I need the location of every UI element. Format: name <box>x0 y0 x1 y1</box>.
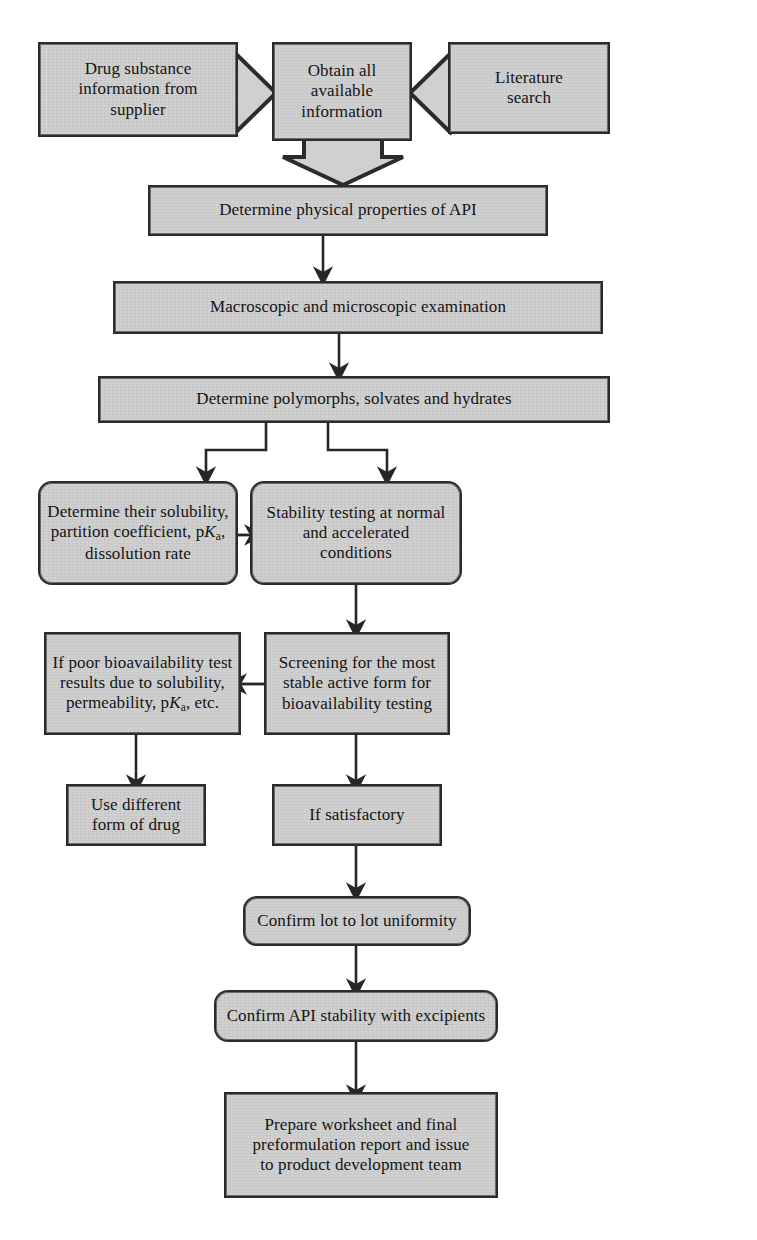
node-poor-bioavailability[interactable]: If poor bioavailability testresults due … <box>44 632 241 735</box>
node-api-stability-label: Confirm API stability with excipients <box>227 1006 486 1026</box>
block-chevron-left-icon <box>410 52 452 134</box>
node-literature-search-label: Literaturesearch <box>495 68 563 108</box>
node-api-stability[interactable]: Confirm API stability with excipients <box>214 990 498 1042</box>
node-stability-testing-label: Stability testing at normaland accelerat… <box>267 503 446 563</box>
node-physical-properties[interactable]: Determine physical properties of API <box>148 185 548 236</box>
node-obtain-all-label: Obtain allavailableinformation <box>301 61 382 121</box>
node-screening-label: Screening for the moststable active form… <box>279 653 436 713</box>
node-polymorphs-label: Determine polymorphs, solvates and hydra… <box>196 389 511 409</box>
node-macro-micro[interactable]: Macroscopic and microscopic examination <box>113 281 603 334</box>
node-prepare-worksheet[interactable]: Prepare worksheet and finalpreformulatio… <box>224 1092 498 1198</box>
node-prepare-worksheet-label: Prepare worksheet and finalpreformulatio… <box>253 1115 470 1175</box>
node-if-satisfactory-label: If satisfactory <box>309 805 404 825</box>
node-use-different-form[interactable]: Use differentform of drug <box>66 784 206 846</box>
node-screening[interactable]: Screening for the moststable active form… <box>264 632 450 735</box>
node-use-different-form-label: Use differentform of drug <box>91 795 181 835</box>
flowchart-canvas: Drug substanceinformation fromsupplier O… <box>0 0 757 1240</box>
node-stability-testing[interactable]: Stability testing at normaland accelerat… <box>250 481 462 585</box>
node-macro-micro-label: Macroscopic and microscopic examination <box>210 297 506 317</box>
node-lot-uniformity-label: Confirm lot to lot uniformity <box>257 911 456 931</box>
node-drug-substance-label: Drug substanceinformation fromsupplier <box>78 59 197 119</box>
block-arrow-down-icon <box>283 140 403 185</box>
block-chevron-right-icon <box>234 52 276 134</box>
node-drug-substance[interactable]: Drug substanceinformation fromsupplier <box>38 42 238 137</box>
node-literature-search[interactable]: Literaturesearch <box>448 42 610 134</box>
node-polymorphs[interactable]: Determine polymorphs, solvates and hydra… <box>98 376 610 423</box>
node-solubility-label: Determine their solubility,partition coe… <box>47 502 228 563</box>
node-solubility[interactable]: Determine their solubility,partition coe… <box>38 481 238 585</box>
node-if-satisfactory[interactable]: If satisfactory <box>272 784 442 846</box>
node-lot-uniformity[interactable]: Confirm lot to lot uniformity <box>243 896 471 946</box>
node-obtain-all[interactable]: Obtain allavailableinformation <box>272 42 412 141</box>
node-poor-bioavailability-label: If poor bioavailability testresults due … <box>53 653 233 714</box>
node-physical-properties-label: Determine physical properties of API <box>219 200 477 220</box>
